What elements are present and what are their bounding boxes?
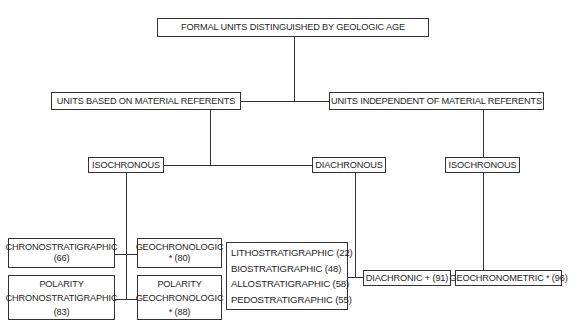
connector-diachronous-down xyxy=(355,173,356,277)
connector-level1 xyxy=(241,101,329,102)
node-geochronologic: GEOCHRONOLOGIC * (80) xyxy=(137,238,222,268)
node-label: POLARITY xyxy=(157,277,201,291)
node-diachronous: DIACHRONOUS xyxy=(312,157,386,173)
connector-chrono-geo xyxy=(115,254,137,255)
root-node-formal-units: FORMAL UNITS DISTINGUISHED BY GEOLOGIC A… xyxy=(157,18,429,37)
node-geochronometric: GEOCHRONOMETRIC * (96) xyxy=(455,270,562,286)
node-units-independent-of-material-referents: UNITS INDEPENDENT OF MATERIAL REFERENTS xyxy=(329,92,544,110)
node-label: ISOCHRONOUS xyxy=(92,160,160,171)
node-label: POLARITY xyxy=(39,277,83,291)
node-reference: * (80) xyxy=(169,253,191,264)
node-label: CHRONOSTRATIGRAPHIC xyxy=(6,242,118,253)
node-label: FORMAL UNITS DISTINGUISHED BY GEOLOGIC A… xyxy=(181,22,405,33)
connector-isochronous-right-down xyxy=(483,173,484,271)
node-isochronous-material: ISOCHRONOUS xyxy=(88,157,164,173)
list-item-biostratigraphic: BIOSTRATIGRAPHIC (48) xyxy=(231,261,341,277)
list-item-allostratigraphic: ALLOSTRATIGRAPHIC (58) xyxy=(231,276,349,292)
node-polarity-geochronologic: POLARITY GEOCHRONOLOGIC * (88) xyxy=(137,275,222,320)
node-label: ISOCHRONOUS xyxy=(449,160,517,171)
node-label: DIACHRONOUS xyxy=(315,160,382,171)
node-units-based-on-material-referents: UNITS BASED ON MATERIAL REFERENTS xyxy=(51,92,241,110)
node-label: GEOCHRONOLOGIC xyxy=(136,242,224,253)
node-diachronic: DIACHRONIC + (91) xyxy=(363,270,451,286)
connector-polarity xyxy=(115,299,137,300)
node-label: GEOCHRONOLOGIC xyxy=(136,291,224,305)
node-label: CHRONOSTRATIGRAPHIC xyxy=(6,291,118,305)
node-polarity-chronostratigraphic: POLARITY CHRONOSTRATIGRAPHIC (83) xyxy=(8,275,115,320)
connector-list-diachronic xyxy=(348,277,363,278)
connector-root-down xyxy=(294,37,295,101)
connector-material-down xyxy=(210,110,211,165)
node-reference: (83) xyxy=(54,305,70,319)
connector-independent-down xyxy=(483,110,484,157)
list-item-pedostratigraphic: PEDOSTRATIGRAPHIC (55) xyxy=(231,292,352,308)
node-label: DIACHRONIC + (91) xyxy=(366,273,448,284)
list-item-lithostratigraphic: LITHOSTRATIGRAPHIC (22) xyxy=(231,245,353,261)
node-isochronous-independent: ISOCHRONOUS xyxy=(445,157,520,173)
node-label: UNITS INDEPENDENT OF MATERIAL REFERENTS xyxy=(331,96,542,107)
node-label: UNITS BASED ON MATERIAL REFERENTS xyxy=(57,96,235,107)
connector-isochronous-left-down xyxy=(126,173,127,299)
node-material-diachronous-units: LITHOSTRATIGRAPHIC (22) BIOSTRATIGRAPHIC… xyxy=(226,242,348,310)
node-reference: * (88) xyxy=(169,305,191,319)
node-label: GEOCHRONOMETRIC * (96) xyxy=(449,273,567,284)
node-reference: (66) xyxy=(54,253,70,264)
connector-material-split xyxy=(164,165,312,166)
node-chronostratigraphic: CHRONOSTRATIGRAPHIC (66) xyxy=(8,238,115,268)
